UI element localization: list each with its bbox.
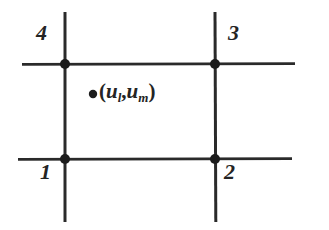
node-dot-2 — [210, 154, 220, 164]
corner-label-3: 3 — [228, 22, 239, 44]
node-dot-1 — [60, 154, 70, 164]
horizontal-line-bottom — [18, 159, 292, 160]
corner-label-1: 1 — [40, 161, 51, 183]
figure-strokes — [0, 0, 329, 230]
variable-u-l-subscript: l — [118, 90, 122, 105]
node-dot-4 — [60, 59, 70, 69]
close-paren: ) — [148, 79, 155, 103]
grid-cell-figure: 4 3 1 2 (ul,um) — [0, 0, 329, 230]
node-dot-3 — [210, 59, 220, 69]
interior-point-label: (ul,um) — [99, 81, 155, 102]
variable-u-l-base: u — [106, 79, 118, 103]
variable-u-m-base: u — [127, 79, 139, 103]
interior-point-dot — [89, 90, 97, 98]
corner-label-4: 4 — [36, 22, 47, 44]
variable-u-m-subscript: m — [138, 90, 148, 105]
vertical-line-right — [215, 12, 216, 222]
open-paren: ( — [99, 79, 106, 103]
corner-label-2: 2 — [224, 161, 235, 183]
